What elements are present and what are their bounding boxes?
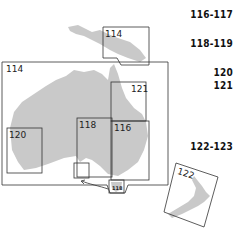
label-121: 121 <box>131 85 148 94</box>
label-114-australia: 114 <box>6 65 23 74</box>
page-ref-121[interactable]: 121 <box>214 81 233 91</box>
page-ref-120[interactable]: 120 <box>214 68 233 78</box>
frame-inset[interactable] <box>74 163 89 178</box>
label-118-tasmania: 118 <box>112 186 122 191</box>
label-116: 116 <box>114 124 131 133</box>
new-zealand-landmass <box>168 176 210 218</box>
page-ref-116-117[interactable]: 116-117 <box>190 10 233 20</box>
page-ref-118-119[interactable]: 118-119 <box>190 39 233 49</box>
label-114-png: 114 <box>105 30 122 39</box>
label-120: 120 <box>9 131 26 140</box>
page-ref-122-123[interactable]: 122-123 <box>190 142 233 152</box>
label-118: 118 <box>79 121 96 130</box>
